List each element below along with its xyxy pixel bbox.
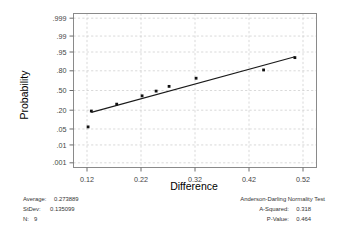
n-label: N: (23, 216, 29, 222)
probability-plot-svg: .001.01.05.20.50.80.95.99.999 0.120.220.… (0, 0, 344, 235)
y-tick-label: .50 (57, 86, 67, 95)
a-squared-label: A-Squared: (259, 206, 289, 212)
stdev-value: 0.135099 (50, 206, 75, 212)
average-label: Average: (23, 196, 47, 202)
probability-plot: .001.01.05.20.50.80.95.99.999 0.120.220.… (0, 0, 344, 235)
data-point (141, 94, 144, 97)
p-value-value: 0.464 (296, 216, 311, 222)
y-tick-label: .20 (57, 106, 67, 115)
y-tick-label: .05 (57, 125, 67, 134)
a-squared-value: 0.318 (296, 206, 311, 212)
y-tick-label: .999 (53, 14, 67, 23)
data-point (87, 125, 90, 128)
p-value-label: P-Value: (267, 216, 290, 222)
y-tick-label: .001 (53, 158, 67, 167)
n-value: 9 (34, 216, 37, 222)
data-point (90, 110, 93, 113)
y-tick-label: .95 (57, 48, 67, 57)
x-tick-label: 0.22 (134, 175, 148, 184)
data-point (168, 85, 171, 88)
x-tick-label: 0.42 (242, 175, 256, 184)
anderson-darling-title: Anderson-Darling Normality Test (240, 196, 325, 202)
data-point (195, 77, 198, 80)
data-point (294, 56, 297, 59)
data-point (155, 90, 158, 93)
stdev-label: StDev: (23, 206, 41, 212)
data-point (262, 69, 265, 72)
y-tick-label: .99 (57, 32, 67, 41)
y-axis-title: Probability (18, 70, 30, 120)
x-tick-label: 0.12 (80, 175, 94, 184)
x-axis-title: Difference (170, 180, 218, 192)
data-point (115, 103, 118, 106)
x-tick-label: 0.52 (296, 175, 310, 184)
y-tick-label: .01 (57, 141, 67, 150)
average-value: 0.273889 (54, 196, 79, 202)
y-tick-label: .80 (57, 66, 67, 75)
